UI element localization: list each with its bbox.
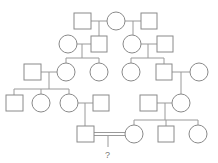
female-gen4-3 (60, 94, 78, 112)
male-gen2-2 (91, 36, 107, 52)
female-gen2-1 (59, 35, 77, 53)
male-gen3-1 (24, 64, 41, 80)
male-gen4-4 (93, 95, 109, 111)
female-gen5-4 (189, 125, 207, 143)
female-gen3-2 (57, 63, 75, 81)
unknown-offspring-label: ? (105, 150, 110, 160)
male-gen5-3 (158, 126, 174, 142)
male-gen1-3 (141, 13, 157, 29)
female-gen4-6 (172, 94, 190, 112)
female-gen1-2 (107, 12, 125, 30)
female-gen5-2 (125, 125, 143, 143)
male-gen1-1 (74, 13, 91, 29)
male-gen2-4 (157, 36, 173, 52)
male-gen4-5 (140, 95, 157, 111)
male-gen5-1 (77, 126, 94, 142)
male-gen3-5 (156, 64, 172, 80)
female-gen4-2 (32, 94, 50, 112)
female-gen3-4 (122, 63, 140, 81)
male-gen4-1 (6, 95, 23, 111)
pedigree-chart: ? (0, 0, 218, 163)
female-gen3-6 (190, 63, 208, 81)
female-gen2-3 (123, 35, 141, 53)
female-gen3-3 (90, 63, 108, 81)
